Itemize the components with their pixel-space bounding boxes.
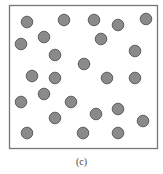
particle-circle: [78, 58, 90, 70]
particle-circle: [90, 108, 102, 120]
particle-circle: [112, 19, 124, 31]
particle-circle: [112, 103, 124, 115]
particle-circle: [88, 14, 100, 26]
particle-circle: [140, 13, 152, 25]
particle-circle: [49, 112, 61, 124]
particle-circle: [15, 96, 27, 108]
figure-caption: (c): [0, 156, 163, 167]
particle-circle: [26, 70, 38, 82]
particle-circle: [129, 72, 141, 84]
particle-circle: [38, 88, 50, 100]
particle-diagram: [0, 0, 163, 174]
particle-circle: [21, 16, 33, 28]
particle-circle: [49, 49, 61, 61]
particle-circle: [38, 31, 50, 43]
particle-circle: [49, 72, 61, 84]
particle-circle: [112, 127, 124, 139]
particle-circle: [101, 72, 113, 84]
particle-circle: [21, 127, 33, 139]
particle-circle: [77, 127, 89, 139]
particle-circle: [15, 38, 27, 50]
particles-group: [15, 13, 152, 139]
particle-circle: [137, 115, 149, 127]
particle-circle: [58, 14, 70, 26]
particle-circle: [95, 33, 107, 45]
particle-circle: [65, 96, 77, 108]
particle-circle: [129, 45, 141, 57]
